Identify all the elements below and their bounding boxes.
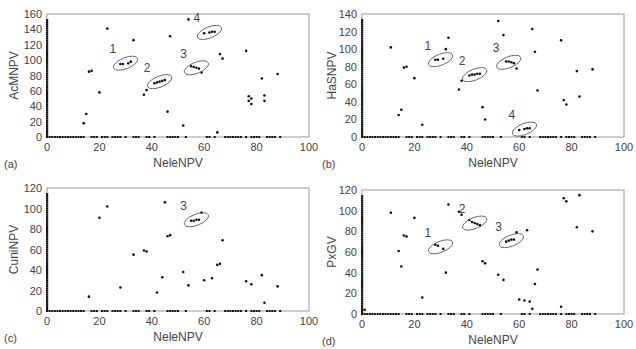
x-tick-label: 20 bbox=[408, 318, 420, 330]
panel-label: (b) bbox=[322, 158, 335, 170]
x-tick-label: 80 bbox=[565, 141, 577, 153]
y-tick-label: 140 bbox=[24, 23, 42, 35]
y-tick-label: 120 bbox=[339, 184, 357, 196]
cluster-ellipse bbox=[111, 53, 139, 73]
panel-label: (a) bbox=[4, 158, 17, 170]
panel-a: 020406080100120140160020406080100NeleNPV… bbox=[0, 0, 318, 175]
scatter-plot-a: 020406080100120140160020406080100NeleNPV… bbox=[0, 0, 318, 175]
x-tick-label: 100 bbox=[615, 318, 633, 330]
y-tick-label: 60 bbox=[30, 85, 42, 97]
y-tick-label: 0 bbox=[351, 131, 357, 143]
data-points bbox=[46, 18, 281, 138]
y-tick-label: 0 bbox=[36, 305, 42, 317]
y-tick-label: 120 bbox=[24, 182, 42, 194]
cluster-label: 1 bbox=[110, 42, 117, 56]
y-axis-label: CuniNPV bbox=[7, 225, 21, 274]
x-tick-label: 60 bbox=[198, 315, 210, 327]
y-tick-label: 80 bbox=[30, 70, 42, 82]
panel-label: (d) bbox=[322, 335, 335, 347]
cluster-label: 1 bbox=[425, 226, 432, 240]
cluster-label: 4 bbox=[508, 108, 515, 122]
x-tick-label: 0 bbox=[44, 315, 50, 327]
cluster-label: 3 bbox=[495, 220, 502, 234]
x-tick-label: 20 bbox=[93, 141, 105, 153]
x-tick-label: 80 bbox=[250, 315, 262, 327]
panel-b: 020406080100120140020406080100NeleNPVHaS… bbox=[318, 0, 636, 175]
plot-frame bbox=[47, 188, 309, 311]
y-tick-label: 40 bbox=[345, 96, 357, 108]
panel-d: 020406080100120020406080100NeleNPVPxGV(d… bbox=[318, 174, 636, 349]
x-axis-label: NeleNPV bbox=[468, 156, 517, 170]
y-tick-label: 20 bbox=[30, 116, 42, 128]
scatter-plot-c: 020406080100120020406080100NeleNPVCuniNP… bbox=[0, 174, 318, 349]
cluster-label: 4 bbox=[193, 11, 200, 25]
x-tick-label: 20 bbox=[408, 141, 420, 153]
y-tick-label: 40 bbox=[345, 267, 357, 279]
scatter-plot-d: 020406080100120020406080100NeleNPVPxGV(d… bbox=[318, 174, 636, 349]
x-tick-label: 40 bbox=[461, 318, 473, 330]
y-axis-label: HaSNPV bbox=[325, 51, 339, 99]
y-tick-label: 140 bbox=[339, 8, 357, 20]
cluster-label: 2 bbox=[144, 61, 151, 75]
x-tick-label: 0 bbox=[44, 141, 50, 153]
cluster-ellipse bbox=[426, 237, 454, 257]
y-tick-label: 20 bbox=[345, 287, 357, 299]
x-tick-label: 80 bbox=[565, 318, 577, 330]
x-tick-label: 0 bbox=[359, 318, 365, 330]
y-tick-label: 120 bbox=[339, 26, 357, 38]
x-axis-label: NeleNPV bbox=[153, 156, 202, 170]
x-axis-label: NeleNPV bbox=[153, 330, 202, 344]
x-tick-label: 80 bbox=[250, 141, 262, 153]
y-tick-label: 80 bbox=[30, 223, 42, 235]
x-axis-label: NeleNPV bbox=[468, 333, 517, 347]
x-tick-label: 60 bbox=[513, 318, 525, 330]
data-points bbox=[46, 193, 281, 312]
x-tick-label: 0 bbox=[359, 141, 365, 153]
y-tick-label: 100 bbox=[24, 203, 42, 215]
x-tick-label: 60 bbox=[513, 141, 525, 153]
x-tick-label: 100 bbox=[615, 141, 633, 153]
y-tick-label: 80 bbox=[345, 225, 357, 237]
x-tick-label: 60 bbox=[198, 141, 210, 153]
cluster-ellipse bbox=[426, 50, 454, 70]
y-tick-label: 120 bbox=[24, 39, 42, 51]
y-tick-label: 20 bbox=[345, 113, 357, 125]
x-tick-label: 40 bbox=[146, 315, 158, 327]
panel-c: 020406080100120020406080100NeleNPVCuniNP… bbox=[0, 174, 318, 349]
y-axis-label: PxGV bbox=[325, 236, 339, 267]
y-tick-label: 20 bbox=[30, 285, 42, 297]
y-tick-label: 0 bbox=[351, 308, 357, 320]
x-tick-label: 20 bbox=[93, 315, 105, 327]
y-tick-label: 40 bbox=[30, 100, 42, 112]
y-tick-label: 160 bbox=[24, 8, 42, 20]
y-tick-label: 40 bbox=[30, 264, 42, 276]
y-tick-label: 100 bbox=[339, 43, 357, 55]
cluster-label: 2 bbox=[459, 54, 466, 68]
y-tick-label: 60 bbox=[30, 244, 42, 256]
x-tick-label: 40 bbox=[146, 141, 158, 153]
x-tick-label: 100 bbox=[300, 141, 318, 153]
y-tick-label: 100 bbox=[24, 54, 42, 66]
cluster-label: 3 bbox=[493, 41, 500, 55]
y-tick-label: 60 bbox=[345, 246, 357, 258]
y-tick-label: 60 bbox=[345, 78, 357, 90]
y-tick-label: 80 bbox=[345, 61, 357, 73]
cluster-label: 3 bbox=[180, 199, 187, 213]
y-axis-label: AcMNPV bbox=[7, 51, 21, 100]
panel-label: (c) bbox=[4, 332, 17, 344]
y-tick-label: 100 bbox=[339, 205, 357, 217]
scatter-plot-b: 020406080100120140020406080100NeleNPVHaS… bbox=[318, 0, 636, 175]
y-tick-label: 0 bbox=[36, 131, 42, 143]
data-points bbox=[361, 194, 596, 315]
cluster-label: 1 bbox=[425, 39, 432, 53]
cluster-label: 2 bbox=[459, 202, 466, 216]
plot-frame bbox=[47, 14, 309, 137]
plot-frame bbox=[362, 190, 624, 314]
cluster-label: 3 bbox=[180, 47, 187, 61]
x-tick-label: 40 bbox=[461, 141, 473, 153]
x-tick-label: 100 bbox=[300, 315, 318, 327]
plot-frame bbox=[362, 14, 624, 137]
